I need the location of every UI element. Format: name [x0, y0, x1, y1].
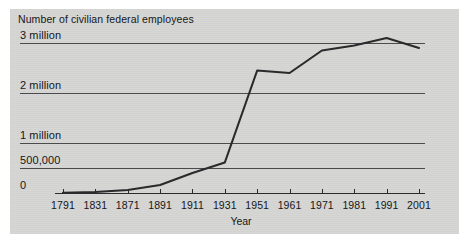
- y-tick-label-1-million: 1 million: [20, 129, 61, 141]
- x-tick-label-2001: 2001: [401, 199, 437, 211]
- x-tick-label-1951: 1951: [239, 199, 275, 211]
- x-tick-label-1971: 1971: [304, 199, 340, 211]
- gridlines-group: [20, 44, 425, 169]
- y-tick-label-3-million: 3 million: [20, 29, 61, 41]
- x-tick-label-1961: 1961: [272, 199, 308, 211]
- x-tick-label-1831: 1831: [77, 199, 113, 211]
- chart-figure: Number of civilian federal employees 050…: [0, 0, 468, 243]
- y-tick-label-2-million: 2 million: [20, 79, 61, 91]
- x-tick-label-1891: 1891: [142, 199, 178, 211]
- y-tick-label-500-000: 500,000: [20, 154, 60, 166]
- x-tick-label-1981: 1981: [336, 199, 372, 211]
- x-tick-label-1931: 1931: [207, 199, 243, 211]
- series-line-civilian-federal-employees: [63, 38, 419, 193]
- x-axis-title: Year: [161, 215, 321, 227]
- x-tick-label-1911: 1911: [174, 199, 210, 211]
- x-tick-label-1791: 1791: [45, 199, 81, 211]
- y-tick-label-0: 0: [20, 179, 26, 191]
- x-tick-label-1871: 1871: [110, 199, 146, 211]
- x-tick-label-1991: 1991: [369, 199, 405, 211]
